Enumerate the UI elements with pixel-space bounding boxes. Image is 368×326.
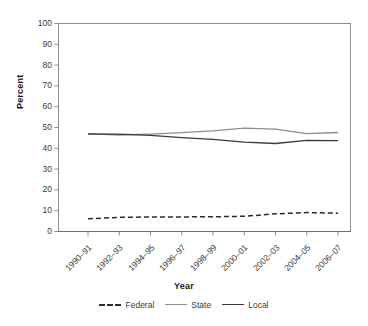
y-tick-label: 50: [26, 123, 52, 132]
y-tick-label: 20: [26, 185, 52, 194]
y-tick-label: 40: [26, 144, 52, 153]
chart-legend: FederalStateLocal: [0, 300, 368, 310]
y-tick-label: 80: [26, 61, 52, 70]
data-series-group: [88, 128, 338, 219]
legend-item-state[interactable]: State: [165, 300, 211, 310]
y-tick-label: 30: [26, 165, 52, 174]
legend-swatch-state-icon: [165, 301, 187, 309]
legend-label: Local: [248, 300, 268, 310]
legend-swatch-federal-icon: [99, 301, 121, 309]
legend-item-federal[interactable]: Federal: [99, 300, 154, 310]
legend-label: State: [191, 300, 211, 310]
x-axis-ticks: [88, 232, 338, 236]
y-tick-label: 70: [26, 81, 52, 90]
y-tick-label: 0: [26, 227, 52, 236]
series-line-federal: [88, 213, 338, 219]
y-axis-ticks: [55, 24, 59, 232]
series-line-local: [88, 134, 338, 143]
y-tick-label: 100: [26, 19, 52, 28]
line-chart: Percent 0102030405060708090100 1990–9119…: [0, 0, 368, 326]
y-tick-label: 60: [26, 102, 52, 111]
y-tick-label: 90: [26, 40, 52, 49]
legend-label: Federal: [125, 300, 154, 310]
y-tick-label: 10: [26, 206, 52, 215]
x-axis-title: Year: [0, 281, 368, 291]
legend-swatch-local-icon: [222, 301, 244, 309]
legend-item-local[interactable]: Local: [222, 300, 268, 310]
